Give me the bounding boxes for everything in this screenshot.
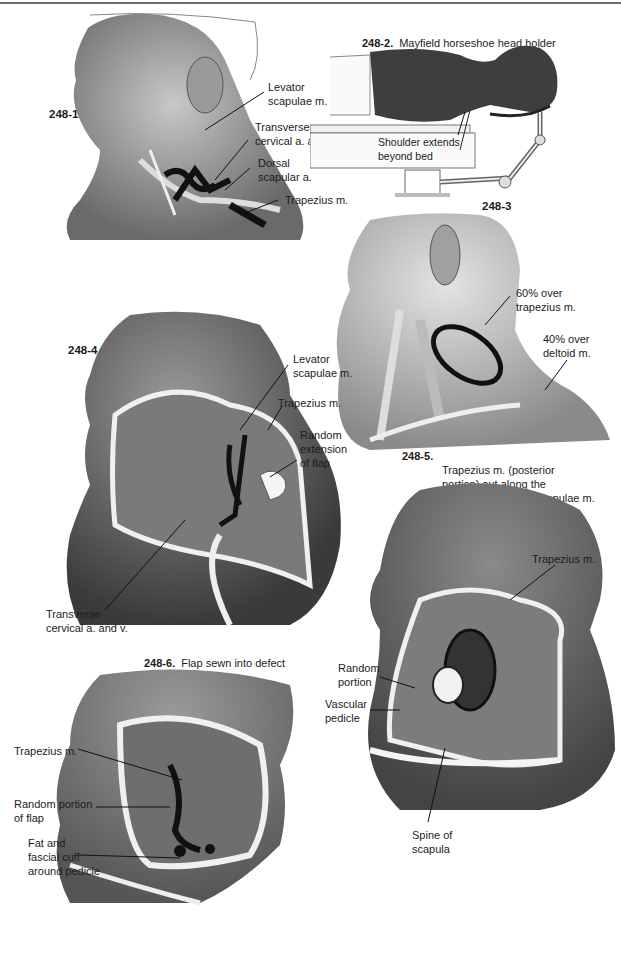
label-transverse-cervical-248-4: Transverse cervical a. and v. xyxy=(46,607,128,635)
figure-248-3 xyxy=(330,210,621,450)
label-spine-of-scapula: Spine of scapula xyxy=(412,828,452,856)
label-dorsal-scapular: Dorsal scapular a. xyxy=(258,156,312,184)
label-shoulder-extends: Shoulder extends beyond bed xyxy=(378,135,460,163)
label-random-extension: Random extension of flap xyxy=(300,428,347,470)
label-40-over-deltoid: 40% over deltoid m. xyxy=(543,332,591,360)
head-neck-illustration-248-3 xyxy=(330,210,621,450)
label-trapezius-248-6: Trapezius m. xyxy=(14,744,77,758)
figure-number-248-5: 248-5. xyxy=(402,449,433,463)
label-random-portion: Random portion xyxy=(338,661,380,689)
label-fat-fascial-cuff: Fat and fascial cuff around pedicle xyxy=(28,836,100,878)
label-trapezius-248-4: Trapezius m. xyxy=(278,396,341,410)
figure-number-248-1: 248-1 xyxy=(49,108,78,120)
figure-248-5 xyxy=(360,470,621,810)
label-random-portion-of-flap: Random portion of flap xyxy=(14,797,92,825)
mayfield-head-holder-illustration xyxy=(310,30,621,205)
surgical-flap-illustration-248-5 xyxy=(360,470,621,810)
label-levator-scapulae-248-4: Levator scapulae m. xyxy=(293,352,352,380)
label-trapezius-248-5: Trapezius m. xyxy=(532,552,595,566)
label-60-over-trapezius: 60% over trapezius m. xyxy=(516,286,576,314)
figure-248-2 xyxy=(310,30,621,205)
